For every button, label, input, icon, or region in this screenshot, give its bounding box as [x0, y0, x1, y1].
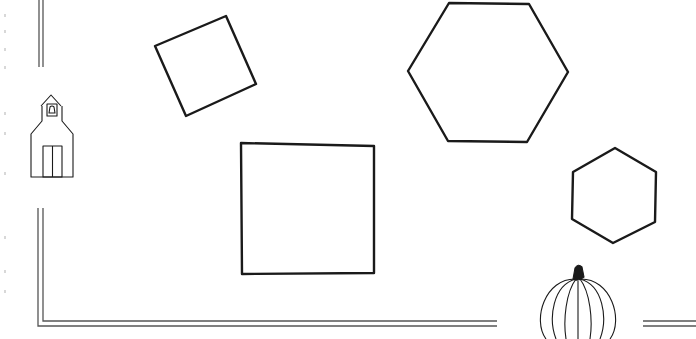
scan-mark: [4, 14, 6, 17]
scan-mark: [4, 112, 6, 115]
border-frame: [38, 0, 696, 326]
large-square-shape: [241, 143, 374, 274]
pumpkin-icon: [540, 265, 615, 339]
scan-mark: [4, 290, 6, 293]
schoolhouse-icon: [31, 95, 73, 177]
scan-mark: [4, 236, 6, 239]
scan-mark: [4, 172, 6, 175]
worksheet-canvas: [0, 0, 696, 339]
worksheet-drawing: [0, 0, 696, 339]
scan-mark: [4, 66, 6, 69]
scan-mark: [4, 48, 6, 51]
scan-mark: [4, 30, 6, 33]
scan-mark: [4, 270, 6, 273]
scan-mark: [4, 132, 6, 135]
large-hexagon-shape: [408, 3, 568, 142]
small-hexagon-shape: [572, 148, 656, 243]
rotated-square-shape: [155, 16, 256, 116]
